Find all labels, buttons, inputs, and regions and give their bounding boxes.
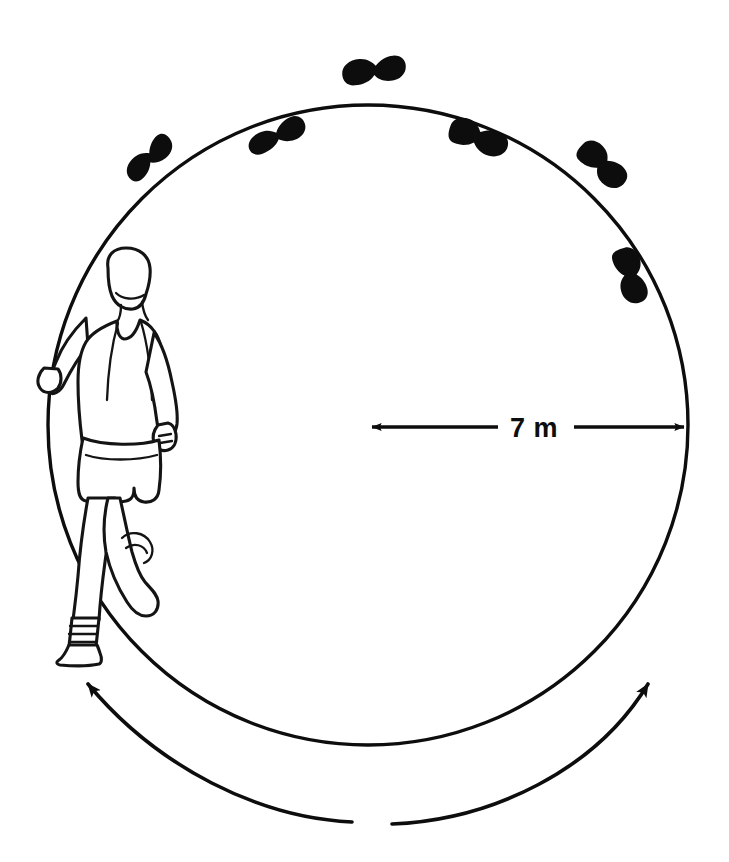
circular-track-diagram: 7 m	[0, 0, 729, 862]
runner-head	[108, 248, 151, 309]
diagram-canvas: 7 m	[0, 0, 729, 862]
dimension-label: 7 m	[510, 413, 558, 443]
runner-shorts	[78, 438, 161, 503]
runner-left-hand	[38, 368, 61, 393]
